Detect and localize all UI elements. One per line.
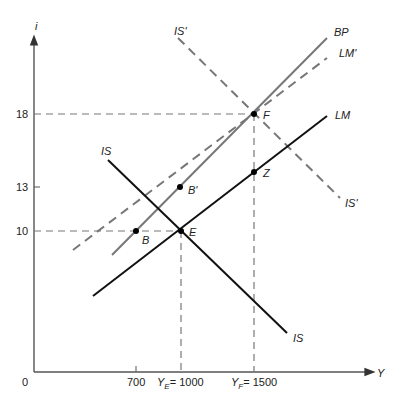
y-axis-label: i: [35, 20, 38, 32]
label-b: B: [142, 234, 149, 246]
x-tick-yf: YF= 1500: [231, 376, 277, 391]
y-tick-13: 13: [16, 181, 28, 193]
label-is-bottom: IS: [293, 332, 304, 344]
x-tick-ye: YE= 1000: [157, 376, 204, 391]
point-b: [133, 228, 139, 234]
is-prime-curve: [178, 38, 340, 198]
label-is-top: IS: [101, 145, 112, 157]
label-lm: LM: [335, 109, 351, 121]
point-b-prime: [177, 184, 183, 190]
label-f: F: [263, 109, 271, 121]
is-curve: [108, 160, 287, 333]
point-f: [251, 111, 257, 117]
label-is-prime-bottom: IS': [345, 197, 358, 209]
x-tick-700: 700: [127, 376, 145, 388]
point-z: [251, 169, 257, 175]
bp-curve: [112, 38, 327, 255]
label-b-prime: B': [188, 184, 198, 196]
islm-bp-diagram: E B B' F Z BP LM' LM IS' IS' IS IS i Y 0…: [0, 0, 400, 405]
label-bp: BP: [334, 26, 349, 38]
y-tick-18: 18: [16, 108, 28, 120]
point-e: [178, 228, 184, 234]
y-tick-10: 10: [16, 225, 28, 237]
label-is-prime-top: IS': [174, 25, 187, 37]
origin-label: 0: [22, 376, 28, 388]
x-axis-label: Y: [377, 367, 385, 379]
label-lm-prime: LM': [339, 47, 357, 59]
label-z: Z: [262, 167, 271, 179]
lm-curve: [93, 116, 327, 296]
label-e: E: [189, 226, 197, 238]
